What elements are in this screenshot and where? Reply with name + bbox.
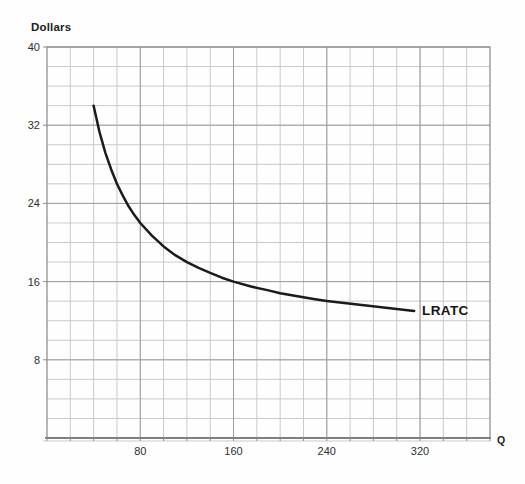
tick-label: 8 xyxy=(34,354,40,366)
tick-label: 240 xyxy=(318,445,336,457)
tick-label: 16 xyxy=(28,276,40,288)
tick-label: 160 xyxy=(224,445,242,457)
tick-label: 80 xyxy=(134,445,146,457)
gridlines-minor xyxy=(47,47,490,438)
y-axis-title: Dollars xyxy=(31,21,71,33)
lratc-chart: 80160240320403224168 Dollars Q LRATC xyxy=(0,0,525,484)
chart-plot-area: 80160240320403224168 xyxy=(0,0,525,484)
x-axis-title: Q xyxy=(497,434,505,446)
lratc-curve xyxy=(94,106,415,311)
lratc-curve-label: LRATC xyxy=(422,303,469,318)
tick-labels: 80160240320403224168 xyxy=(28,41,429,457)
tick-label: 24 xyxy=(28,197,40,209)
tick-label: 32 xyxy=(28,119,40,131)
tick-label: 40 xyxy=(28,41,40,53)
tick-label: 320 xyxy=(411,445,429,457)
